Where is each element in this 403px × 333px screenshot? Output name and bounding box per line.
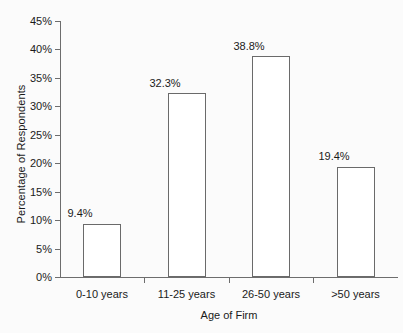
x-tick-mark-2 — [229, 278, 230, 283]
bar-value-label-over-50-years: 19.4% — [315, 151, 353, 162]
bar-value-label-0-10-years: 9.4% — [61, 208, 99, 219]
bar-value-label-11-25-years: 32.3% — [146, 78, 184, 89]
y-tick-label-25: 25% — [18, 130, 52, 141]
x-axis-title: Age of Firm — [60, 309, 398, 321]
bar-over-50-years[interactable] — [337, 167, 375, 277]
y-tick-label-35: 35% — [18, 73, 52, 84]
bar-chart: Percentage of Respondents 45% 40% 35% 30… — [0, 0, 403, 333]
x-tick-mark-1 — [144, 278, 145, 283]
bar-26-50-years[interactable] — [252, 56, 290, 277]
y-tick-label-0: 0% — [18, 272, 52, 283]
bar-value-label-26-50-years: 38.8% — [230, 41, 268, 52]
y-tick-label-10: 10% — [18, 215, 52, 226]
x-category-label-3: >50 years — [313, 288, 398, 300]
bar-0-10-years[interactable] — [83, 224, 121, 278]
x-tick-mark-3 — [313, 278, 314, 283]
y-tick-label-15: 15% — [18, 187, 52, 198]
y-tick-label-5: 5% — [18, 244, 52, 255]
x-category-label-1: 11-25 years — [144, 288, 229, 300]
bar-11-25-years[interactable] — [168, 93, 206, 277]
x-category-label-2: 26-50 years — [229, 288, 313, 300]
y-tick-label-30: 30% — [18, 101, 52, 112]
plot-area — [60, 21, 398, 277]
y-tick-label-40: 40% — [18, 44, 52, 55]
y-tick-label-20: 20% — [18, 158, 52, 169]
x-category-label-0: 0-10 years — [60, 288, 144, 300]
y-tick-label-45: 45% — [18, 16, 52, 27]
